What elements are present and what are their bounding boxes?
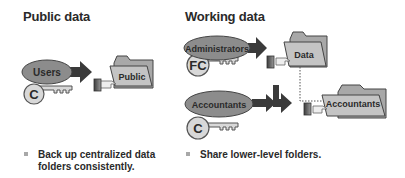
- admin-group-label: Administrators: [185, 44, 249, 54]
- bullet-marker: [24, 152, 28, 156]
- hand-icon: [267, 56, 290, 68]
- admin-arrow-icon: [248, 37, 267, 59]
- hand-icon: [94, 79, 116, 91]
- inheritance-dotted-line: [300, 67, 322, 101]
- users-permission-label: C: [29, 87, 39, 102]
- public-bullet-text: Back up centralized data folders consist…: [38, 149, 155, 173]
- acct-permission-label: C: [193, 121, 203, 136]
- acct-group-label: Accountants: [192, 100, 247, 110]
- acct-arrow-icon: [252, 93, 292, 113]
- accountants-folder-label: Accountants: [326, 99, 381, 109]
- public-folder-label: Public: [118, 72, 145, 82]
- admin-permission-label: FC: [189, 58, 207, 73]
- users-group-label: Users: [33, 67, 61, 78]
- bullet-line-1: Back up centralized data: [38, 149, 155, 160]
- bullet-marker: [186, 152, 190, 156]
- hand-icon: [304, 103, 327, 115]
- working-bullet-text: Share lower-level folders.: [200, 149, 321, 161]
- bullet-line-2: folders consistently.: [38, 161, 135, 172]
- data-folder-label: Data: [294, 50, 315, 60]
